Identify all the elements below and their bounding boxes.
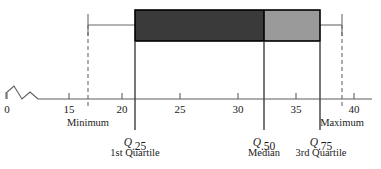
axis-line-with-break-icon	[6, 86, 372, 99]
q75-name-label: 3rd Quartile	[281, 148, 361, 159]
tick-label-15: 15	[57, 104, 81, 115]
box-lower-half	[135, 10, 264, 41]
tick-label-40: 40	[342, 104, 366, 115]
minimum-label: Minimum	[48, 118, 128, 129]
tick-label-30: 30	[226, 104, 250, 115]
boxplot-figure: 0 15 20 25 30 35 40 Minimum Maximum Q.25…	[0, 0, 381, 169]
axis-ticks	[7, 93, 354, 99]
tick-label-0: 0	[0, 104, 19, 115]
axis-line-group	[6, 86, 372, 99]
tick-label-35: 35	[284, 104, 308, 115]
maximum-label: Maximum	[302, 118, 381, 129]
box-upper-half	[264, 10, 320, 41]
q25-name-label: 1st Quartile	[95, 148, 175, 159]
quartile-drop-lines	[135, 42, 320, 130]
box-group	[135, 10, 320, 41]
tick-label-25: 25	[168, 104, 192, 115]
tick-label-20: 20	[110, 104, 134, 115]
